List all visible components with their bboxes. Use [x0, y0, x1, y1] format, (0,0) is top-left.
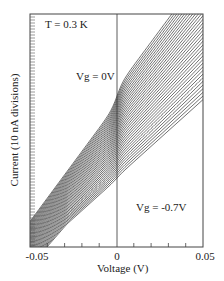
x-axis-label: Voltage (V)	[97, 262, 148, 274]
temperature-annotation: T = 0.3 K	[45, 18, 88, 30]
y-axis-label: Current (10 nA divisions)	[8, 74, 20, 187]
iv-curve	[25, 22, 207, 247]
vg-bottom-annotation: Vg = -0.7V	[136, 201, 187, 213]
vg-top-annotation: Vg = 0V	[76, 70, 115, 82]
iv-curves-chart	[0, 0, 224, 281]
x-tick-label-max: 0.05	[195, 250, 214, 262]
curve-family	[25, 0, 207, 272]
x-axis-ticks	[47, 243, 185, 247]
y-axis-ticks	[30, 17, 35, 245]
x-tick-label-min: -0.05	[26, 250, 49, 262]
x-tick-label-zero: 0	[114, 250, 120, 262]
